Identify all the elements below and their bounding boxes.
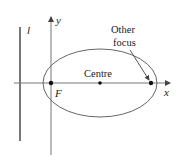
other-focus-pointer-arrow [130, 50, 149, 80]
focus-point [49, 81, 53, 85]
focus-label: F [54, 87, 62, 99]
x-axis-label: x [163, 86, 169, 98]
other-focus-point [149, 81, 153, 85]
other-focus-label-line2: focus [113, 37, 136, 48]
other-focus-label-line1: Other [111, 24, 135, 35]
centre-point [98, 81, 102, 85]
ellipse-diagram: l y x F Centre Other focus [0, 0, 180, 166]
centre-label: Centre [84, 68, 112, 79]
directrix-label: l [27, 24, 30, 36]
y-axis-label: y [55, 14, 61, 26]
